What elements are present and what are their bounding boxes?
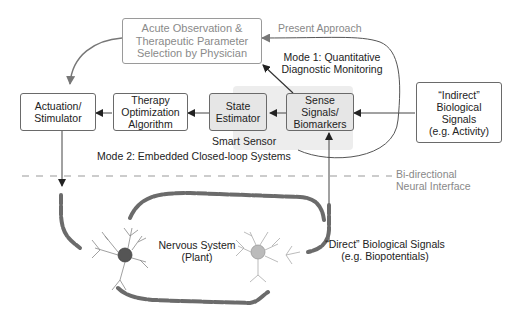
mode2-label: Mode 2: Embedded Closed-loop Systems [97,150,291,162]
sense-signals-text: Sense Signals/ Biomarkers [287,94,353,130]
nervous-system-label-line1: Nervous System [152,239,242,251]
actuation-stimulator-box: Actuation/ Stimulator [20,93,96,131]
direct-signals-label-line2: (e.g. Biopotentials) [320,250,450,262]
neuron-left-icon [92,228,148,290]
indirect-signals-box: “Indirect” Biological Signals (e.g. Acti… [416,82,502,143]
therapy-optimization-text: Therapy Optimization Algorithm [121,94,179,130]
physician-to-actuation-arrow [70,38,122,84]
mode1-label-line1: Mode 1: Quantitative [277,51,387,63]
mode1-label-line2: Diagnostic Monitoring [277,63,387,75]
neuron-right-icon [236,232,300,282]
smart-sensor-label: Smart Sensor [212,135,276,147]
present-approach-label: Present Approach [278,22,361,34]
state-estimator-box: State Estimator [209,93,267,131]
therapy-optimization-box: Therapy Optimization Algorithm [113,93,188,131]
direct-signals-label-line1: “Direct” Biological Signals [320,238,450,250]
sense-signals-box: Sense Signals/ Biomarkers [286,93,354,131]
physician-selection-box: Acute Observation & Therapeutic Paramete… [122,18,262,64]
interface-label-line2: Neural Interface [396,180,471,192]
actuation-stimulator-text: Actuation/ Stimulator [34,100,81,124]
interface-label-line1: Bi-directional [396,168,457,180]
indirect-signals-text: “Indirect” Biological Signals (e.g. Acti… [429,89,489,137]
nervous-system-label-line2: (Plant) [152,251,242,263]
state-estimator-text: State Estimator [216,100,260,124]
physician-selection-text: Acute Observation & Therapeutic Paramete… [136,22,249,60]
